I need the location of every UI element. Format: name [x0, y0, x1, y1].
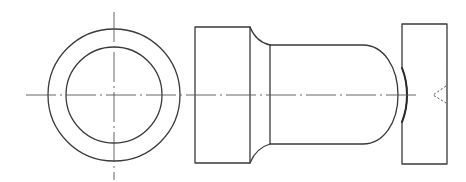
block-outline — [402, 24, 447, 164]
end-view — [26, 12, 184, 180]
shaft-outline — [270, 45, 398, 144]
engineering-drawing — [0, 0, 466, 182]
side-view — [186, 24, 447, 164]
bottom-fillet — [250, 144, 270, 163]
top-fillet — [250, 27, 270, 45]
hidden-drill-point — [433, 86, 446, 103]
